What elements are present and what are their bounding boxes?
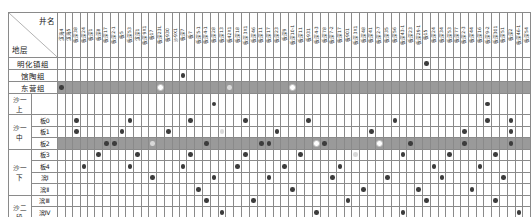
data-cell[interactable] xyxy=(156,58,164,70)
data-cell[interactable] xyxy=(58,94,66,115)
data-cell[interactable] xyxy=(492,161,500,173)
data-cell[interactable] xyxy=(58,161,66,173)
data-cell[interactable] xyxy=(80,126,88,138)
data-cell[interactable] xyxy=(95,207,103,218)
data-cell[interactable] xyxy=(265,172,273,184)
data-cell[interactable] xyxy=(226,207,234,218)
data-cell[interactable] xyxy=(507,149,515,161)
data-cell[interactable] xyxy=(226,94,234,115)
data-cell[interactable] xyxy=(110,94,118,115)
data-cell[interactable] xyxy=(179,172,187,184)
data-cell[interactable] xyxy=(179,138,187,150)
well-header-17[interactable]: 板7 xyxy=(187,13,195,58)
data-cell[interactable] xyxy=(407,138,415,150)
data-cell[interactable] xyxy=(142,184,149,196)
data-cell[interactable] xyxy=(438,149,446,161)
data-cell[interactable] xyxy=(367,161,375,173)
data-cell[interactable] xyxy=(126,184,134,196)
data-cell[interactable] xyxy=(415,82,423,94)
data-cell[interactable] xyxy=(179,207,187,218)
data-cell[interactable] xyxy=(126,207,134,218)
data-cell[interactable] xyxy=(66,126,73,138)
data-cell[interactable] xyxy=(273,184,281,196)
data-cell[interactable] xyxy=(241,94,249,115)
data-cell[interactable] xyxy=(142,94,149,115)
data-cell[interactable] xyxy=(360,184,368,196)
data-cell[interactable] xyxy=(391,115,399,127)
data-cell[interactable] xyxy=(375,115,383,127)
data-cell[interactable] xyxy=(66,58,73,70)
data-cell[interactable] xyxy=(164,149,172,161)
data-cell[interactable] xyxy=(454,115,461,127)
data-cell[interactable] xyxy=(156,82,164,94)
data-cell[interactable] xyxy=(72,82,80,94)
data-cell[interactable] xyxy=(367,172,375,184)
data-cell[interactable] xyxy=(110,126,118,138)
data-cell[interactable] xyxy=(156,138,164,150)
data-cell[interactable] xyxy=(195,195,203,207)
data-cell[interactable] xyxy=(80,138,88,150)
data-cell[interactable] xyxy=(375,207,383,218)
data-cell[interactable] xyxy=(391,58,399,70)
data-cell[interactable] xyxy=(172,184,179,196)
well-header-37[interactable]: 板901 xyxy=(344,13,352,58)
data-cell[interactable] xyxy=(241,115,249,127)
data-cell[interactable] xyxy=(305,94,313,115)
data-cell[interactable] xyxy=(328,172,336,184)
data-cell[interactable] xyxy=(118,94,126,115)
data-cell[interactable] xyxy=(468,70,476,82)
data-cell[interactable] xyxy=(321,195,329,207)
data-cell[interactable] xyxy=(383,161,391,173)
data-cell[interactable] xyxy=(375,58,383,70)
data-cell[interactable] xyxy=(422,207,430,218)
data-cell[interactable] xyxy=(265,126,273,138)
well-header-11[interactable]: 板深9X1 xyxy=(142,13,149,58)
data-cell[interactable] xyxy=(446,94,454,115)
data-cell[interactable] xyxy=(476,149,484,161)
data-cell[interactable] xyxy=(305,58,313,70)
data-cell[interactable] xyxy=(523,138,531,150)
data-cell[interactable] xyxy=(289,207,297,218)
data-cell[interactable] xyxy=(250,82,258,94)
data-cell[interactable] xyxy=(164,161,172,173)
data-cell[interactable] xyxy=(367,149,375,161)
data-cell[interactable] xyxy=(103,115,111,127)
data-cell[interactable] xyxy=(281,161,289,173)
data-cell[interactable] xyxy=(148,126,156,138)
data-cell[interactable] xyxy=(399,172,407,184)
data-cell[interactable] xyxy=(164,195,172,207)
data-cell[interactable] xyxy=(499,70,507,82)
data-cell[interactable] xyxy=(226,149,234,161)
data-cell[interactable] xyxy=(515,195,523,207)
data-cell[interactable] xyxy=(195,82,203,94)
data-cell[interactable] xyxy=(492,184,500,196)
data-cell[interactable] xyxy=(399,195,407,207)
data-cell[interactable] xyxy=(383,138,391,150)
data-cell[interactable] xyxy=(172,161,179,173)
data-cell[interactable] xyxy=(460,149,468,161)
well-header-4[interactable]: 板深1 xyxy=(88,13,95,58)
data-cell[interactable] xyxy=(438,195,446,207)
data-cell[interactable] xyxy=(422,161,430,173)
data-cell[interactable] xyxy=(273,58,281,70)
well-header-35[interactable]: 板深7-2 xyxy=(328,13,336,58)
well-header-7[interactable]: 板深2-1 xyxy=(110,13,118,58)
data-cell[interactable] xyxy=(202,184,210,196)
data-cell[interactable] xyxy=(399,58,407,70)
data-cell[interactable] xyxy=(226,115,234,127)
data-cell[interactable] xyxy=(446,207,454,218)
data-cell[interactable] xyxy=(468,138,476,150)
data-cell[interactable] xyxy=(134,138,142,150)
data-cell[interactable] xyxy=(476,195,484,207)
data-cell[interactable] xyxy=(297,126,305,138)
data-cell[interactable] xyxy=(430,138,438,150)
data-cell[interactable] xyxy=(430,70,438,82)
data-cell[interactable] xyxy=(438,115,446,127)
data-cell[interactable] xyxy=(289,126,297,138)
data-cell[interactable] xyxy=(375,70,383,82)
well-header-42[interactable]: 板深35 xyxy=(383,13,391,58)
data-cell[interactable] xyxy=(226,58,234,70)
data-cell[interactable] xyxy=(95,126,103,138)
data-cell[interactable] xyxy=(118,115,126,127)
data-cell[interactable] xyxy=(344,161,352,173)
